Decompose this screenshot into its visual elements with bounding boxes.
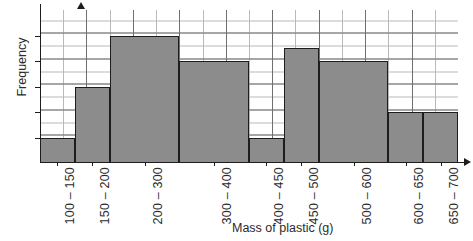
- x-tick-label: 500 – 600: [360, 167, 374, 241]
- x-axis-arrow-icon: [464, 158, 471, 166]
- x-tick-mark: [354, 162, 355, 166]
- y-tick-mark: [35, 87, 40, 88]
- plot-area: [40, 10, 458, 163]
- histogram-bar: [319, 61, 389, 163]
- histogram-bar: [110, 36, 180, 164]
- x-tick-mark: [145, 162, 146, 166]
- x-tick-label: 100 – 150: [63, 167, 77, 241]
- histogram-bar: [179, 61, 249, 163]
- y-axis-arrow-icon: [77, 2, 85, 9]
- histogram-bar: [423, 112, 458, 163]
- y-axis-title: Frequency: [15, 7, 29, 127]
- x-tick-mark: [266, 162, 267, 166]
- histogram-bar: [75, 87, 110, 164]
- histogram-chart: Frequency 12345 100 – 150150 – 200200 – …: [0, 0, 473, 241]
- x-tick-mark: [301, 162, 302, 166]
- x-tick-label: 600 – 650: [412, 167, 426, 241]
- y-tick-mark: [35, 61, 40, 62]
- x-axis-line: [40, 162, 468, 163]
- y-axis-line: [40, 4, 41, 163]
- x-tick-mark: [57, 162, 58, 166]
- x-tick-mark: [92, 162, 93, 166]
- histogram-bar: [40, 138, 75, 164]
- x-axis-title: Mass of plastic (g): [232, 221, 333, 235]
- histogram-bar: [388, 112, 423, 163]
- histogram-bar: [284, 48, 319, 163]
- histogram-bar: [249, 138, 284, 164]
- bars-container: [40, 10, 458, 163]
- x-tick-label: 650 – 700: [447, 167, 461, 241]
- x-tick-mark: [441, 162, 442, 166]
- y-tick-mark: [35, 112, 40, 113]
- x-tick-label: 200 – 300: [151, 167, 165, 241]
- y-tick-mark: [35, 138, 40, 139]
- x-tick-mark: [214, 162, 215, 166]
- x-tick-mark: [406, 162, 407, 166]
- x-tick-label: 150 – 200: [98, 167, 112, 241]
- y-tick-mark: [35, 36, 40, 37]
